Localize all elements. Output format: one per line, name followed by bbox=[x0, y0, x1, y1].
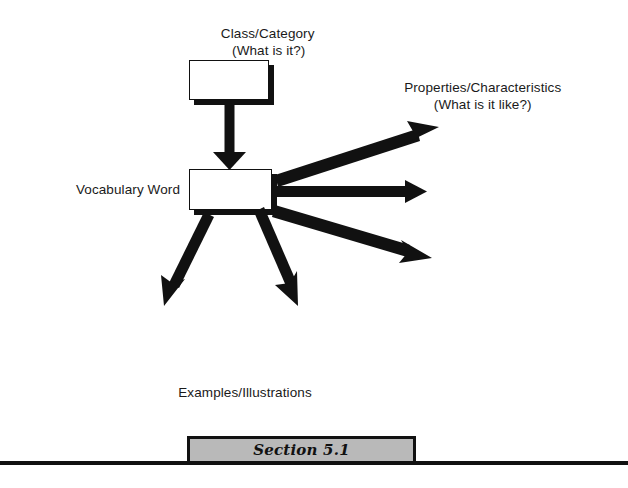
class-category-label-line2: (What is it?) bbox=[230, 43, 305, 58]
properties-label-line2: (What is it like?) bbox=[434, 97, 532, 112]
section-banner: Section 5.1 bbox=[187, 436, 416, 464]
properties-characteristics-label: Properties/Characteristics (What is it l… bbox=[330, 62, 620, 130]
section-banner-label: Section 5.1 bbox=[253, 441, 350, 459]
properties-label-line1: Properties/Characteristics bbox=[404, 80, 561, 95]
arrow-property-1-icon bbox=[275, 121, 439, 187]
class-category-label-line1: Class/Category bbox=[221, 26, 315, 41]
arrow-example-1-icon bbox=[161, 212, 214, 306]
vocabulary-word-label: Vocabulary Word bbox=[20, 181, 180, 198]
vocabulary-word-box[interactable] bbox=[189, 169, 272, 210]
class-category-box[interactable] bbox=[189, 60, 269, 100]
examples-illustrations-label: Examples/Illustrations bbox=[80, 384, 410, 401]
worksheet-page: Class/Category (What is it?) Properties/… bbox=[0, 0, 628, 488]
arrow-example-2-icon bbox=[254, 207, 298, 306]
arrow-property-2-icon bbox=[275, 180, 427, 203]
arrow-down-to-vocabulary-icon bbox=[213, 104, 246, 170]
arrow-property-3-icon bbox=[272, 205, 432, 263]
